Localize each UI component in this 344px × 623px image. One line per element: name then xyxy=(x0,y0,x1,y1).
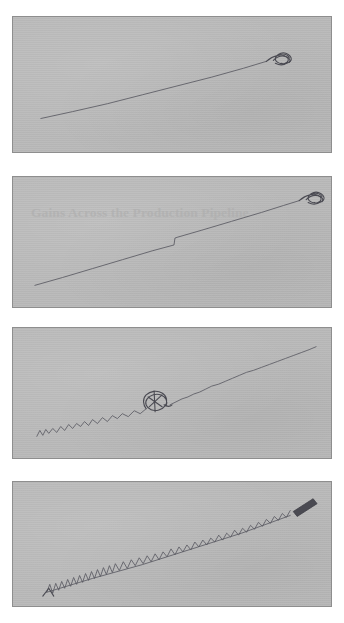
sketch-figure-1 xyxy=(13,17,331,152)
sketch-panel-2: Gains Across the Production Pipeline xyxy=(12,176,332,308)
sketch-figure-2 xyxy=(13,177,331,307)
scribble-blob-icon xyxy=(266,53,291,65)
sketch-panel-1 xyxy=(12,16,332,153)
trend-line-jittery-upper xyxy=(170,347,316,405)
sketch-panel-3 xyxy=(12,327,332,459)
sketch-figure-4 xyxy=(13,482,331,606)
loop-knot-icon xyxy=(144,391,172,412)
trend-line-jittery xyxy=(37,409,146,437)
sketch-figure-3 xyxy=(13,328,331,458)
sketch-panel-4 xyxy=(12,481,332,607)
trend-line-clean xyxy=(41,61,267,118)
scribble-blob-icon xyxy=(299,192,324,204)
dark-dash-icon xyxy=(293,499,317,517)
sketch-panel-stack: Gains Across the Production Pipeline xyxy=(0,0,344,623)
trend-line-step xyxy=(35,201,299,286)
